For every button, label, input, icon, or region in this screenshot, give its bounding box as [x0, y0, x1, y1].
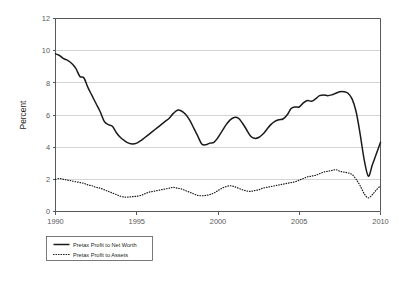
- x-tick-label-1990: 1990: [47, 217, 63, 226]
- y-tick-label-4: 4: [46, 143, 50, 152]
- x-axis-ticks: 19901995200020052010: [47, 212, 388, 226]
- y-axis-ticks: 024681012: [42, 14, 56, 216]
- chart-legend: Pretax Profit to Net WorthPretax Profit …: [47, 237, 153, 261]
- y-tick-label-2: 2: [46, 175, 50, 184]
- x-tick-label-2010: 2010: [372, 217, 388, 226]
- x-tick-label-2000: 2000: [210, 217, 226, 226]
- data-series: [56, 54, 381, 198]
- x-tick-label-2005: 2005: [291, 217, 307, 226]
- y-tick-label-0: 0: [46, 207, 50, 216]
- series-line-pretax-profit-to-assets: [56, 170, 381, 198]
- chart-figure: 024681012 19901995200020052010 Percent P…: [0, 0, 399, 284]
- legend-label-pretax-profit-to-assets: Pretax Profit to Assets: [73, 252, 128, 258]
- gridlines: [56, 19, 381, 180]
- y-tick-label-12: 12: [42, 14, 50, 23]
- line-chart: 024681012 19901995200020052010 Percent P…: [0, 0, 399, 284]
- x-tick-label-1995: 1995: [129, 217, 145, 226]
- y-axis-title: Percent: [18, 100, 28, 130]
- legend-label-pretax-profit-to-net-worth: Pretax Profit to Net Worth: [73, 242, 137, 248]
- y-tick-label-10: 10: [42, 46, 50, 55]
- y-tick-label-6: 6: [46, 111, 50, 120]
- y-tick-label-8: 8: [46, 79, 50, 88]
